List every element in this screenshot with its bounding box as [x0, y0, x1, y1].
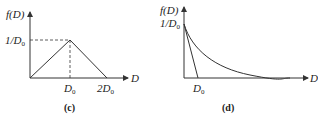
caption-d: (d)	[222, 102, 234, 114]
x-axis-label: D	[309, 72, 318, 84]
x-axis-label: D	[130, 72, 139, 84]
panel-d: f(D) 1/D0 D D0 (d)	[160, 4, 318, 114]
y-axis-label: f(D)	[160, 4, 179, 17]
x-tick-label-d0: D0	[192, 82, 205, 96]
panel-c: f(D) 1/D0 D D0 2D0 (c)	[5, 8, 139, 114]
tangent-line	[184, 24, 198, 78]
x-tick-label-d0: D0	[63, 82, 76, 96]
x-tick-label-2d0: 2D0	[97, 82, 114, 96]
y-tick-label: 1/D0	[5, 34, 26, 48]
caption-c: (c)	[64, 102, 75, 114]
triangle-curve	[30, 40, 107, 78]
y-axis-label: f(D)	[6, 8, 25, 21]
diagram-canvas: f(D) 1/D0 D D0 2D0 (c) f(D) 1/D0 D D0 (d…	[0, 0, 318, 121]
exponential-curve	[184, 24, 290, 79]
y-tick-label: 1/D0	[160, 17, 181, 31]
